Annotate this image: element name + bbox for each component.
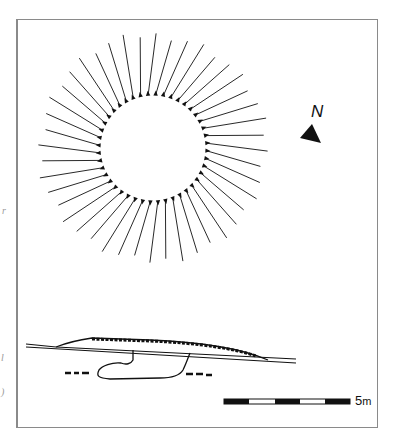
hachure-line bbox=[202, 118, 266, 128]
ground-line-upper bbox=[26, 344, 296, 359]
hachure-head-icon bbox=[132, 95, 136, 100]
hachure-head-icon bbox=[177, 192, 181, 198]
hachure-line bbox=[191, 185, 226, 238]
hachure-line bbox=[63, 186, 116, 221]
north-label: N bbox=[311, 102, 323, 122]
hachure-head-icon bbox=[96, 151, 101, 155]
hachure-head-icon bbox=[99, 129, 105, 133]
hachure-head-icon bbox=[102, 122, 107, 126]
hachure-head-icon bbox=[106, 115, 111, 120]
hachure-line bbox=[199, 104, 258, 122]
hachure-head-icon bbox=[127, 194, 131, 199]
figure: r l ) N 5m bbox=[0, 0, 395, 445]
hachure-head-icon bbox=[193, 113, 198, 118]
hachure-head-icon bbox=[112, 108, 117, 113]
diagram-canvas bbox=[0, 0, 395, 445]
hachure-head-icon bbox=[156, 200, 160, 205]
scale-bar bbox=[224, 399, 350, 404]
hachure-line bbox=[195, 91, 248, 116]
hachure-head-icon bbox=[108, 179, 113, 184]
hachure-line bbox=[179, 194, 197, 253]
mound-section bbox=[26, 338, 296, 379]
hachure-line bbox=[46, 130, 101, 146]
hachure-head-icon bbox=[184, 188, 189, 193]
hachure-line bbox=[48, 174, 107, 192]
hachure-line bbox=[190, 74, 243, 109]
hachure-line bbox=[186, 190, 211, 243]
hachure-line bbox=[119, 200, 143, 255]
hachure-head-icon bbox=[194, 177, 199, 182]
hachure-line bbox=[123, 35, 133, 99]
hachure-line bbox=[206, 143, 268, 151]
hachure-head-icon bbox=[118, 103, 123, 108]
hachure-line bbox=[148, 33, 156, 95]
buried-surface-dashes-right bbox=[186, 374, 212, 375]
hachure-head-icon bbox=[188, 107, 193, 112]
hachure-head-icon bbox=[202, 163, 208, 167]
hachure-line bbox=[150, 201, 158, 263]
hachure-head-icon bbox=[205, 141, 210, 145]
scale-label: 5m bbox=[355, 393, 371, 408]
hachure-line bbox=[205, 158, 260, 182]
hachure-head-icon bbox=[134, 197, 138, 203]
hachure-line bbox=[156, 41, 172, 96]
hachure-head-icon bbox=[168, 94, 172, 100]
mound-plan-hachures bbox=[38, 33, 267, 262]
hachure-head-icon bbox=[146, 91, 150, 96]
hachure-head-icon bbox=[197, 119, 203, 123]
hachure-head-icon bbox=[170, 196, 174, 201]
hachure-head-icon bbox=[189, 183, 194, 188]
hachure-line bbox=[135, 201, 151, 256]
scale-unit: m bbox=[362, 395, 371, 407]
hachure-line bbox=[163, 41, 187, 96]
hachure-line bbox=[46, 114, 101, 138]
hachure-line bbox=[206, 151, 261, 167]
hachure-line bbox=[109, 43, 127, 102]
hachure-head-icon bbox=[182, 101, 187, 106]
hachure-head-icon bbox=[113, 184, 118, 189]
hachure-line bbox=[38, 145, 100, 153]
hachure-line bbox=[79, 58, 114, 111]
hachure-head-icon bbox=[120, 189, 125, 194]
hachure-head-icon bbox=[124, 98, 128, 104]
hachure-head-icon bbox=[100, 165, 105, 169]
hachure-line bbox=[40, 168, 104, 178]
hachure-head-icon bbox=[103, 172, 109, 176]
hachure-line bbox=[58, 181, 111, 206]
hachure-head-icon bbox=[201, 127, 206, 131]
hachure-line bbox=[173, 197, 183, 261]
hachure-line bbox=[96, 53, 121, 106]
hachure-head-icon bbox=[199, 170, 204, 174]
north-arrow-icon bbox=[300, 124, 321, 143]
hachure-head-icon bbox=[175, 97, 179, 102]
